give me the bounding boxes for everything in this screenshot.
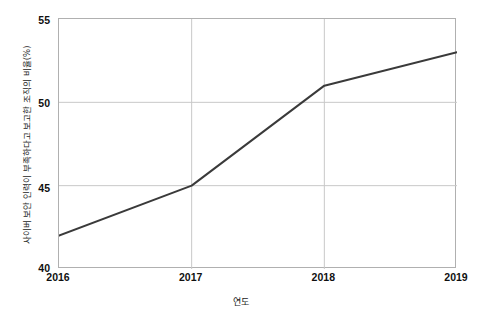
y-axis-title: 사이버 보안 인력이 부족하다고 보고한 조직의 비율(%) <box>20 46 32 245</box>
y-tick-label-40: 40 <box>10 262 50 274</box>
chart-figure: 사이버 보안 인력이 부족하다고 보고한 조직의 비율(%) 40 45 50 … <box>0 0 482 323</box>
y-tick-label-55: 55 <box>10 14 50 26</box>
data-series-line <box>59 52 457 235</box>
plot-area <box>58 18 456 268</box>
y-axis-title-container: 사이버 보안 인력이 부족하다고 보고한 조직의 비율(%) <box>14 0 38 290</box>
vertical-gridlines <box>192 19 325 269</box>
x-tick-label-2017: 2017 <box>179 271 202 283</box>
x-tick-label-2016: 2016 <box>46 271 69 283</box>
y-tick-label-50: 50 <box>10 97 50 109</box>
chart-svg <box>59 19 457 269</box>
y-tick-label-45: 45 <box>10 182 50 194</box>
x-tick-label-2018: 2018 <box>312 271 335 283</box>
x-axis-title: 연도 <box>0 295 482 308</box>
x-tick-label-2019: 2019 <box>444 271 467 283</box>
horizontal-gridlines <box>59 102 457 185</box>
